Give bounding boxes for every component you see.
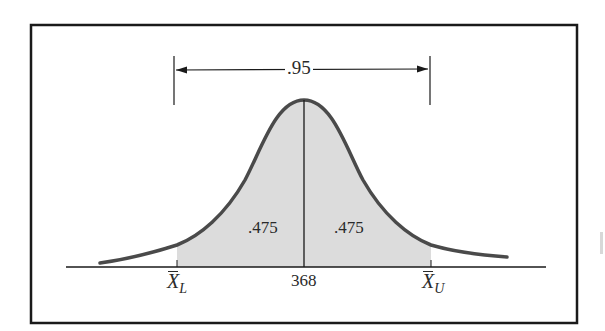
upper-bound-subscript: U bbox=[434, 281, 444, 296]
mean-value-label: 368 bbox=[291, 271, 317, 291]
right-area-label: .475 bbox=[334, 218, 364, 238]
scan-edge-mark bbox=[600, 232, 603, 254]
total-area-label: .95 bbox=[285, 57, 313, 79]
upper-bound-symbol: X bbox=[422, 270, 434, 293]
lower-bound-symbol: X bbox=[167, 270, 179, 293]
lower-bound-subscript: L bbox=[179, 281, 187, 296]
upper-bound-label: XU bbox=[422, 270, 444, 297]
left-arrowhead-icon bbox=[176, 67, 187, 74]
lower-bound-label: XL bbox=[167, 270, 187, 297]
figure-canvas: .95 .475 .475 368 XL XU bbox=[0, 0, 605, 331]
left-area-label: .475 bbox=[248, 218, 278, 238]
right-arrowhead-icon bbox=[417, 66, 428, 73]
